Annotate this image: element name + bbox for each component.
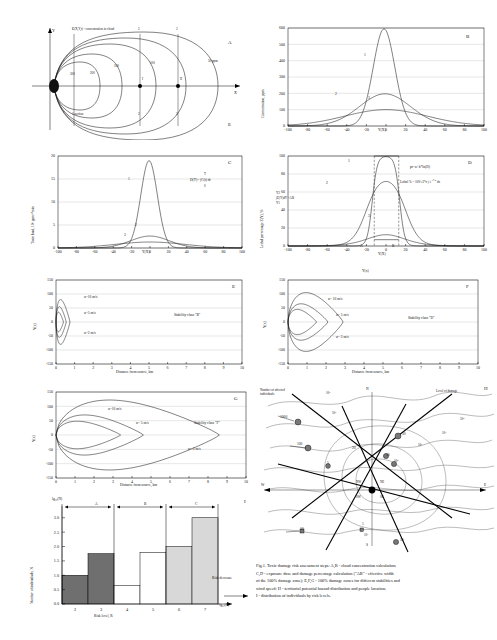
svg-text:1: 1	[74, 365, 76, 370]
panel-h-damage-10e7: 10⁷	[326, 392, 330, 395]
panel-h-damage-10e6: 10⁶	[332, 412, 336, 415]
panel-e-id: E	[232, 284, 235, 289]
svg-text:20: 20	[281, 225, 285, 230]
panel-g-speed-5: u= 5 m/s	[136, 422, 149, 426]
svg-text:10: 10	[476, 365, 480, 370]
svg-text:200: 200	[279, 91, 285, 96]
panel-g-id: G	[234, 396, 238, 401]
panel-b-series-2-label: 2	[335, 93, 337, 97]
svg-text:-150: -150	[46, 475, 53, 480]
svg-text:80: 80	[462, 247, 466, 252]
panel-g-chart: -150-100-50050100150012345678910	[22, 386, 258, 498]
svg-text:3: 3	[112, 479, 114, 484]
caption-line-5: I - distribution of individuals by risk …	[256, 592, 494, 600]
svg-text:-60: -60	[325, 127, 330, 132]
panel-a-id-secondary: E	[228, 122, 231, 127]
panel-e-ylabel: Y(x)	[34, 323, 38, 330]
svg-text:1: 1	[306, 365, 308, 370]
panel-b-xlabel: Y(X)	[378, 129, 386, 133]
panel-a-contour-200: 200	[90, 72, 95, 75]
panel-h-compass-w: W	[261, 484, 264, 488]
panel-h-damage-10e3: 10³	[418, 444, 422, 447]
svg-text:40: 40	[423, 247, 427, 252]
panel-h-pop-1000: 1000	[280, 416, 287, 420]
panel-h-damage-10e4: 10⁴	[442, 432, 446, 435]
panel-i-group-b: B	[144, 503, 146, 507]
svg-text:40: 40	[281, 207, 285, 212]
svg-text:3: 3	[344, 365, 346, 370]
caption-line-4: wind speed; H - territorial potential ha…	[256, 585, 494, 593]
panel-a-section-top-2: 2	[138, 28, 140, 31]
svg-text:9: 9	[458, 365, 460, 370]
svg-text:100: 100	[481, 247, 487, 252]
svg-text:6: 6	[178, 607, 181, 612]
panel-h-damage-10e5: 10⁵	[460, 418, 464, 421]
svg-text:-150: -150	[46, 361, 53, 366]
panel-a-point-ii: II	[180, 78, 182, 81]
svg-text:0.0: 0.0	[54, 601, 59, 606]
panel-b-concentration-profile: 0100200300400500600-100-80-60-40-2002040…	[252, 18, 495, 146]
panel-d-marker-a: A	[360, 245, 363, 249]
panel-d-ylabel: Lethal percentage Z(Y), %	[261, 209, 265, 248]
svg-text:-100: -100	[278, 347, 285, 352]
panel-h-compass-e: E	[484, 484, 486, 488]
panel-h-compass-nw: NW	[356, 481, 361, 484]
panel-h-pop-20: 20	[352, 447, 356, 451]
panel-h-pop-5: 5	[327, 462, 329, 466]
panel-a-contour-50ppm: 100	[150, 62, 155, 65]
svg-text:2: 2	[74, 607, 76, 612]
svg-text:6: 6	[169, 479, 171, 484]
svg-text:20: 20	[404, 127, 408, 132]
panel-h-compass-n: N	[366, 388, 369, 392]
panel-h-damage-10e2: 10²	[394, 460, 398, 463]
panel-i-chart: 0.00.51.01.52.02.53.0234567	[22, 498, 258, 630]
panel-f-chart: -150-100-50050100150012345678910	[252, 270, 495, 384]
panel-g-ylabel: Y(x)	[33, 435, 37, 442]
panel-a-section-label: 1 section	[72, 113, 83, 116]
panel-i-ylabel-top: lg₁₀(N)	[52, 498, 62, 502]
svg-text:60: 60	[443, 127, 447, 132]
svg-text:0: 0	[55, 365, 57, 370]
panel-i-xlabel-right: -lg₁₀(R)	[218, 604, 229, 608]
svg-text:7: 7	[185, 365, 187, 370]
svg-text:10: 10	[244, 479, 248, 484]
svg-text:1.0: 1.0	[54, 573, 59, 578]
panel-d-formula-ab-lower: Y1	[276, 202, 280, 205]
panel-f-axis-top-label: Y(x)	[362, 270, 369, 274]
panel-f-speed-5: u= 5 m/s	[336, 314, 349, 318]
svg-text:100: 100	[481, 127, 487, 132]
panel-a-note: C(X,Y,t) - concentration in cloud	[72, 28, 114, 31]
svg-text:2: 2	[92, 365, 94, 370]
svg-text:100: 100	[47, 404, 53, 409]
svg-text:7: 7	[188, 479, 190, 484]
panel-f-speed-10: u= 10 m/s	[328, 298, 342, 302]
panel-a-point-i: I	[142, 78, 143, 81]
panel-i-group-c: C	[195, 503, 197, 507]
svg-text:50: 50	[49, 305, 53, 310]
svg-text:8: 8	[207, 479, 209, 484]
svg-text:500: 500	[279, 42, 285, 47]
panel-i-risk-distribution: 0.00.51.01.52.02.53.0234567 Number of in…	[22, 498, 258, 630]
svg-text:9: 9	[226, 479, 228, 484]
panel-d-xlabel: Y(X)	[378, 253, 386, 257]
panel-d-marker-b: B	[392, 245, 394, 249]
panel-e-xlabel: Distance from source, km	[116, 371, 153, 375]
panel-a-contour-100: 100	[114, 65, 119, 68]
panel-b-series-1-label: 1	[364, 54, 366, 58]
svg-text:100: 100	[279, 153, 285, 158]
svg-text:6: 6	[167, 365, 169, 370]
svg-text:-40: -40	[344, 127, 349, 132]
panel-d-formula-probit: pr=a+b*ln(D)	[410, 166, 430, 170]
svg-text:9: 9	[222, 365, 224, 370]
panel-b-id: B	[466, 34, 469, 39]
panel-a-section-top-1: 1	[72, 28, 74, 31]
panel-h-pop-10: 10	[386, 454, 390, 458]
svg-text:400: 400	[279, 58, 285, 63]
svg-text:20: 20	[404, 247, 408, 252]
svg-text:-80: -80	[305, 247, 310, 252]
svg-text:100: 100	[279, 291, 285, 296]
panel-f-ylabel: Y(x)	[264, 321, 268, 328]
panel-h-pop-1: 1	[362, 523, 364, 527]
panel-g-xlabel: Distance from source, km	[120, 484, 157, 488]
svg-text:1: 1	[74, 479, 76, 484]
